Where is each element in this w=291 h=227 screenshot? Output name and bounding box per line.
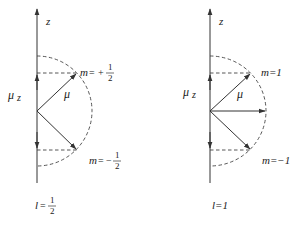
m-minus-half-label: m = − 1 2	[89, 150, 121, 171]
svg-text:m: m	[80, 66, 88, 78]
mu-vector-up	[210, 74, 250, 111]
svg-text:=: =	[89, 67, 95, 78]
svg-text:+: +	[98, 67, 104, 78]
svg-text:1: 1	[50, 195, 55, 205]
svg-text:=: =	[40, 200, 46, 211]
l-half-label: l = 1 2	[35, 195, 56, 216]
m-one-label: m=1	[261, 66, 282, 78]
mu-vector-up	[37, 74, 76, 111]
svg-text:1: 1	[115, 150, 120, 160]
svg-text:2: 2	[108, 73, 113, 83]
angular-momentum-quantization-diagram: z μz μ m = + 1 2 m = − 1 2 l = 1 2	[0, 0, 291, 227]
svg-text:m: m	[89, 154, 97, 166]
right-panel-spin-one: z μz μ m=1 m=−1 l=1	[182, 9, 290, 211]
mu-z-label: μz	[182, 85, 196, 100]
mu-vector-down	[37, 111, 76, 149]
svg-text:l: l	[35, 199, 38, 211]
l-one-label: l=1	[212, 199, 228, 211]
z-axis-label: z	[45, 15, 51, 27]
svg-text:1: 1	[108, 62, 113, 72]
mu-z-label: μz	[7, 88, 21, 103]
z-axis-label: z	[218, 15, 224, 27]
mu-vector-label: μ	[236, 87, 243, 101]
m-plus-half-label: m = + 1 2	[80, 62, 114, 83]
svg-text:2: 2	[50, 206, 55, 216]
mu-vector-label: μ	[63, 87, 70, 101]
svg-text:−: −	[106, 155, 112, 166]
svg-text:=: =	[98, 155, 104, 166]
left-panel-spin-half: z μz μ m = + 1 2 m = − 1 2 l = 1 2	[7, 9, 121, 216]
m-minus-one-label: m=−1	[262, 154, 290, 166]
mu-vector-down	[210, 111, 250, 149]
svg-text:2: 2	[115, 161, 120, 171]
